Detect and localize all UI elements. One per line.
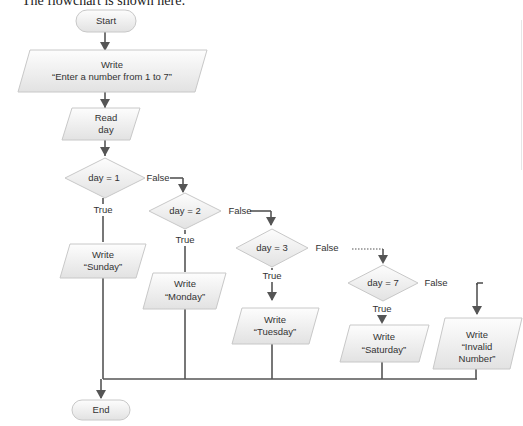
write-tuesday-line2: “Tuesday” bbox=[254, 326, 296, 338]
dec2-false-label: False bbox=[228, 205, 251, 217]
write-sunday-line1: Write bbox=[92, 249, 114, 261]
read-day-line2: day bbox=[98, 124, 113, 136]
dec2-label: day = 2 bbox=[169, 205, 200, 217]
write-saturday-line2: “Saturday” bbox=[362, 344, 406, 356]
dec3-true-label: True bbox=[262, 270, 281, 282]
dec7-false-label: False bbox=[424, 277, 447, 289]
flowchart-canvas bbox=[0, 0, 523, 426]
dec3-false-label: False bbox=[315, 242, 338, 254]
write-monday-line2: “Monday” bbox=[165, 291, 205, 303]
dec1-true-label: True bbox=[93, 204, 112, 216]
dec1-false-label: False bbox=[146, 172, 169, 184]
write-prompt-line1: Write bbox=[101, 59, 123, 71]
arrowheads bbox=[96, 42, 482, 399]
start-label: Start bbox=[96, 15, 116, 27]
dec1-label: day = 1 bbox=[88, 172, 119, 184]
dec2-true-label: True bbox=[175, 234, 194, 246]
end-label: End bbox=[93, 404, 110, 416]
write-invalid-line1: Write bbox=[466, 329, 488, 341]
write-invalid-line3: Number” bbox=[459, 353, 496, 365]
flowchart-diagram: The flowchart is shown here: bbox=[0, 0, 523, 426]
read-day-line1: Read bbox=[95, 112, 118, 124]
write-prompt-line2: “Enter a number from 1 to 7” bbox=[52, 71, 172, 83]
write-sunday-line2: “Sunday” bbox=[84, 261, 123, 273]
dec7-true-label: True bbox=[372, 303, 391, 315]
write-monday-line1: Write bbox=[174, 278, 196, 290]
dec7-label: day = 7 bbox=[367, 277, 398, 289]
write-tuesday-line1: Write bbox=[264, 314, 286, 326]
write-saturday-line1: Write bbox=[373, 331, 395, 343]
dec3-label: day = 3 bbox=[256, 242, 287, 254]
write-invalid-line2: “Invalid bbox=[462, 341, 493, 353]
